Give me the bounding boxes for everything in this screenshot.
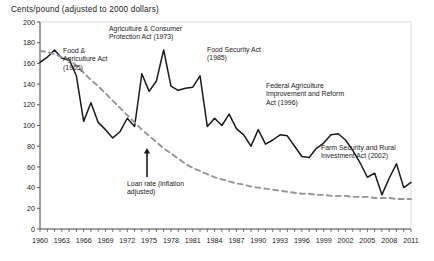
cotton-price-line xyxy=(40,50,411,195)
chart-container: Cents/pound (adjusted to 2000 dollars) 0… xyxy=(0,0,434,261)
x-tick-label: 1981 xyxy=(185,236,201,245)
x-tick-label: 1993 xyxy=(272,236,288,245)
annotation-line: Agriculture Act xyxy=(63,55,108,63)
annotation-line: Protection Act (1973) xyxy=(109,33,173,41)
x-tick-label: 1999 xyxy=(316,236,332,245)
x-tick-label: 1990 xyxy=(250,236,266,245)
annotation-line: (1985) xyxy=(207,54,227,62)
chart-plot-area: 0204060801001201401601802001960196319661… xyxy=(0,0,434,261)
annotation-line: Investment Act (2002) xyxy=(321,152,388,160)
y-tick-label: 40 xyxy=(27,183,35,192)
annotation-line: Food & xyxy=(63,47,86,54)
loan-rate-arrow-head xyxy=(144,148,150,154)
annotation-line: (1965) xyxy=(63,64,83,72)
annotation-line: Improvement and Reform xyxy=(266,90,344,98)
x-tick-label: 1978 xyxy=(163,236,179,245)
y-tick-label: 140 xyxy=(23,80,35,89)
x-tick-label: 1960 xyxy=(32,236,48,245)
annotation-line: Federal Agriculture xyxy=(266,82,324,90)
y-tick-label: 180 xyxy=(23,38,35,47)
annotation-federal-agriculture-improvement-reform-act: Federal AgricultureImprovement and Refor… xyxy=(266,82,344,107)
loan-rate-line xyxy=(40,51,411,199)
x-tick-label: 1963 xyxy=(54,236,70,245)
x-tick-label: 1972 xyxy=(119,236,135,245)
y-tick-label: 20 xyxy=(27,204,35,213)
annotation-agriculture-consumer-protection-act: Agriculture & ConsumerProtection Act (19… xyxy=(109,25,183,41)
x-tick-label: 1969 xyxy=(97,236,113,245)
x-tick-label: 1996 xyxy=(294,236,310,245)
annotation-food-agriculture-act: Food &Agriculture Act(1965) xyxy=(63,47,108,72)
annotation-food-security-act: Food Security Act(1985) xyxy=(207,46,261,62)
x-tick-label: 2011 xyxy=(403,236,418,245)
y-tick-label: 0 xyxy=(31,225,35,234)
y-tick-label: 60 xyxy=(27,163,35,172)
annotation-line: Farm Security and Rural xyxy=(321,144,396,152)
y-tick-label: 120 xyxy=(23,100,35,109)
plot-frame xyxy=(40,22,411,229)
x-tick-label: 1975 xyxy=(141,236,157,245)
annotation-farm-security-rural-investment-act: Farm Security and RuralInvestment Act (2… xyxy=(321,144,396,160)
y-tick-label: 80 xyxy=(27,142,35,151)
x-tick-label: 2002 xyxy=(338,236,354,245)
y-tick-label: 200 xyxy=(23,18,35,27)
annotation-line: Act (1996) xyxy=(266,99,298,107)
annotation-line: Loan rate (inflation xyxy=(127,180,184,188)
annotation-line: adjusted) xyxy=(127,188,155,196)
y-tick-label: 100 xyxy=(23,121,35,130)
x-tick-label: 1987 xyxy=(228,236,244,245)
x-tick-label: 1966 xyxy=(76,236,92,245)
x-tick-label: 1984 xyxy=(207,236,223,245)
annotation-line: Food Security Act xyxy=(207,46,261,54)
y-tick-label: 160 xyxy=(23,59,35,68)
annotation-loan-rate-callout: Loan rate (inflationadjusted) xyxy=(127,180,184,196)
x-tick-label: 2005 xyxy=(359,236,375,245)
annotation-line: Agriculture & Consumer xyxy=(109,25,183,33)
x-tick-label: 2008 xyxy=(381,236,397,245)
